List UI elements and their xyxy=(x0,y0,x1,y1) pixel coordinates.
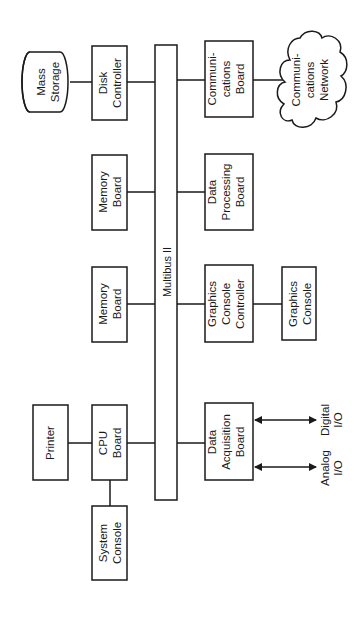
memory-board-1: Memory Board xyxy=(92,155,127,230)
system-console-line-1: System xyxy=(97,524,109,562)
communications-board-line-2: cations xyxy=(220,61,232,98)
cpu-board-line-1: CPU xyxy=(97,431,109,455)
printer: Printer xyxy=(33,405,68,480)
data-acquisition-board: Data Acquisition Board xyxy=(205,403,253,480)
data-acquisition-board-line-2: Acquisition xyxy=(220,414,232,470)
multibus-ii: Multibus II xyxy=(155,45,177,500)
data-processing-board-line-2: Processing xyxy=(220,164,232,221)
communications-network-line-2: cations xyxy=(304,62,316,99)
bus-label: Multibus II xyxy=(161,247,173,297)
digital-io-line-1: Digital xyxy=(319,404,331,436)
analog-io-line-1: Analog xyxy=(319,450,331,486)
memory-board-1-line-1: Memory xyxy=(97,171,109,213)
data-processing-board: Data Processing Board xyxy=(205,154,253,230)
mass-storage-line-1: Mass xyxy=(35,68,47,96)
data-acquisition-board-line-3: Board xyxy=(234,427,246,458)
data-processing-board-line-3: Board xyxy=(234,177,246,208)
memory-board-2: Memory Board xyxy=(92,267,127,342)
analog-io-label: Analog I/O xyxy=(319,450,344,486)
data-processing-board-line-1: Data xyxy=(206,179,218,204)
cpu-board: CPU Board xyxy=(92,405,127,480)
mass-storage-line-2: Storage xyxy=(49,62,61,102)
block-diagram: Multibus II Mass Storage Disk Controller… xyxy=(0,0,360,621)
disk-controller-line-2: Controller xyxy=(111,58,123,108)
memory-board-2-line-2: Board xyxy=(111,289,123,320)
communications-board: Communi- cations Board xyxy=(205,41,253,117)
data-acquisition-board-line-1: Data xyxy=(206,429,218,454)
communications-network-line-1: Communi- xyxy=(290,53,302,106)
graphics-console-controller-line-1: Graphics xyxy=(206,281,218,327)
analog-io-line-2: I/O xyxy=(332,460,344,475)
digital-io-label: Digital I/O xyxy=(319,404,344,436)
disk-controller: Disk Controller xyxy=(92,46,127,120)
communications-board-line-3: Board xyxy=(234,64,246,95)
communications-network: Communi- cations Network xyxy=(277,31,347,127)
system-console-line-2: Console xyxy=(111,522,123,564)
graphics-console-controller-line-2: Console xyxy=(220,283,232,325)
graphics-console: Graphics Console xyxy=(282,267,316,340)
mass-storage: Mass Storage xyxy=(22,52,68,112)
cpu-board-line-2: Board xyxy=(111,428,123,459)
digital-io-line-2: I/O xyxy=(332,412,344,427)
graphics-console-controller-line-3: Controller xyxy=(234,279,246,329)
memory-board-1-line-2: Board xyxy=(111,177,123,208)
graphics-console-line-1: Graphics xyxy=(287,281,299,327)
communications-board-line-1: Communi- xyxy=(206,52,218,105)
printer-line-1: Printer xyxy=(44,426,56,460)
disk-controller-line-1: Disk xyxy=(97,72,109,95)
memory-board-2-line-1: Memory xyxy=(97,283,109,325)
graphics-console-controller: Graphics Console Controller xyxy=(205,265,253,342)
system-console: System Console xyxy=(92,506,127,580)
graphics-console-line-2: Console xyxy=(301,283,313,325)
communications-network-line-3: Network xyxy=(318,59,330,101)
